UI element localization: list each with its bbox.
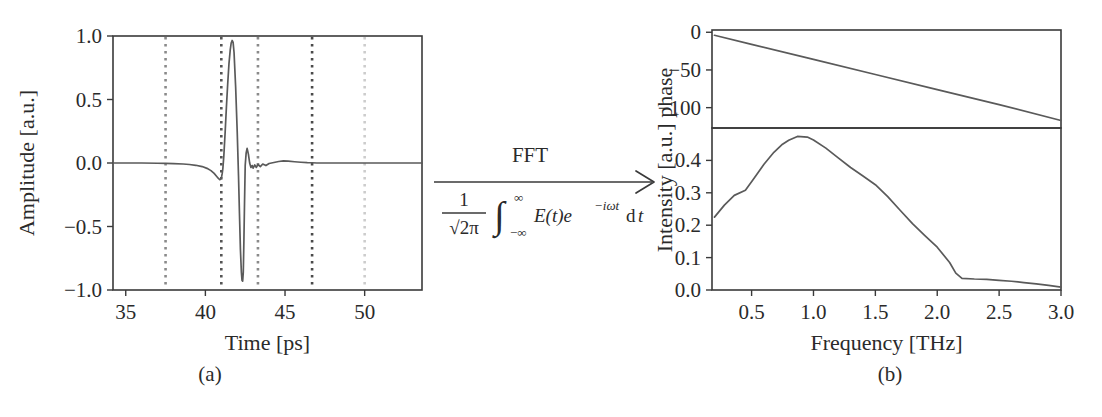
y-tick-label-a-1: −0.5: [64, 215, 102, 239]
x-tick-label-a-3: 50: [354, 300, 375, 324]
fft-label: FFT: [512, 143, 548, 167]
x-tick-label-b-4: 2.5: [986, 300, 1012, 324]
formula-numerator: 1: [459, 189, 469, 210]
y-tick-label-a-0: −1.0: [64, 278, 102, 302]
y-tick-label-a-4: 1.0: [76, 24, 102, 48]
x-tick-label-a-1: 40: [195, 300, 216, 324]
y-tick-label-intensity-2: 0.2: [675, 213, 701, 237]
time-domain-plot: −1.0−0.50.00.51.035404550Time [ps]Amplit…: [0, 0, 440, 360]
time-domain-waveform: [113, 40, 422, 281]
integrand-exponent: −iωt: [594, 198, 620, 213]
y-axis-title-b: Intensity [a.u.] phase: [652, 68, 677, 253]
x-tick-label-b-3: 2.0: [924, 300, 950, 324]
integrand-expression: E(t)e: [533, 205, 572, 227]
y-tick-label-a-2: 0.0: [76, 151, 102, 175]
y-tick-label-intensity-1: 0.1: [675, 246, 701, 270]
differential-d: d: [626, 205, 636, 226]
frequency-domain-plot: 0−50−1000.00.10.20.30.40.51.01.52.02.53.…: [650, 0, 1102, 360]
x-tick-label-b-1: 1.0: [800, 300, 826, 324]
figure-container: −1.0−0.50.00.51.035404550Time [ps]Amplit…: [0, 0, 1102, 417]
panel-b-intensity-frame: [712, 128, 1061, 290]
x-tick-label-b-2: 1.5: [862, 300, 888, 324]
formula-denominator: √2π: [449, 217, 479, 238]
phase-curve: [714, 35, 1061, 120]
integral-lower-limit: −∞: [510, 225, 527, 240]
x-axis-title-a: Time [ps]: [225, 330, 310, 355]
y-tick-label-intensity-0: 0.0: [675, 278, 701, 302]
integral-upper-limit: ∞: [514, 190, 523, 205]
y-tick-label-a-3: 0.5: [76, 88, 102, 112]
subfigure-label-a: (a): [150, 362, 270, 387]
fft-arrow-graphic: FFT 1 √2π ∫ ∞ −∞ E(t)e −iωt d t: [430, 140, 670, 260]
x-tick-label-a-2: 45: [275, 300, 296, 324]
panel-b-frequency-domain: 0−50−1000.00.10.20.30.40.51.01.52.02.53.…: [650, 0, 1102, 360]
panel-b-phase-frame: [712, 30, 1061, 128]
fft-transform-block: FFT 1 √2π ∫ ∞ −∞ E(t)e −iωt d t: [430, 140, 670, 260]
y-tick-label-intensity-3: 0.3: [675, 181, 701, 205]
y-tick-label-intensity-4: 0.4: [675, 148, 702, 172]
differential-variable: t: [638, 205, 644, 226]
subfigure-label-b: (b): [830, 362, 950, 387]
intensity-spectrum-curve: [714, 136, 1061, 287]
x-tick-label-a-0: 35: [115, 300, 136, 324]
y-tick-label-phase-0: 0: [691, 20, 702, 44]
panel-a-time-domain: −1.0−0.50.00.51.035404550Time [ps]Amplit…: [0, 0, 440, 360]
x-tick-label-b-0: 0.5: [738, 300, 764, 324]
x-axis-title-b: Frequency [THz]: [810, 330, 962, 355]
x-tick-label-b-5: 3.0: [1048, 300, 1074, 324]
integral-symbol: ∫: [492, 194, 507, 239]
y-axis-title-a: Amplitude [a.u.]: [14, 90, 39, 236]
